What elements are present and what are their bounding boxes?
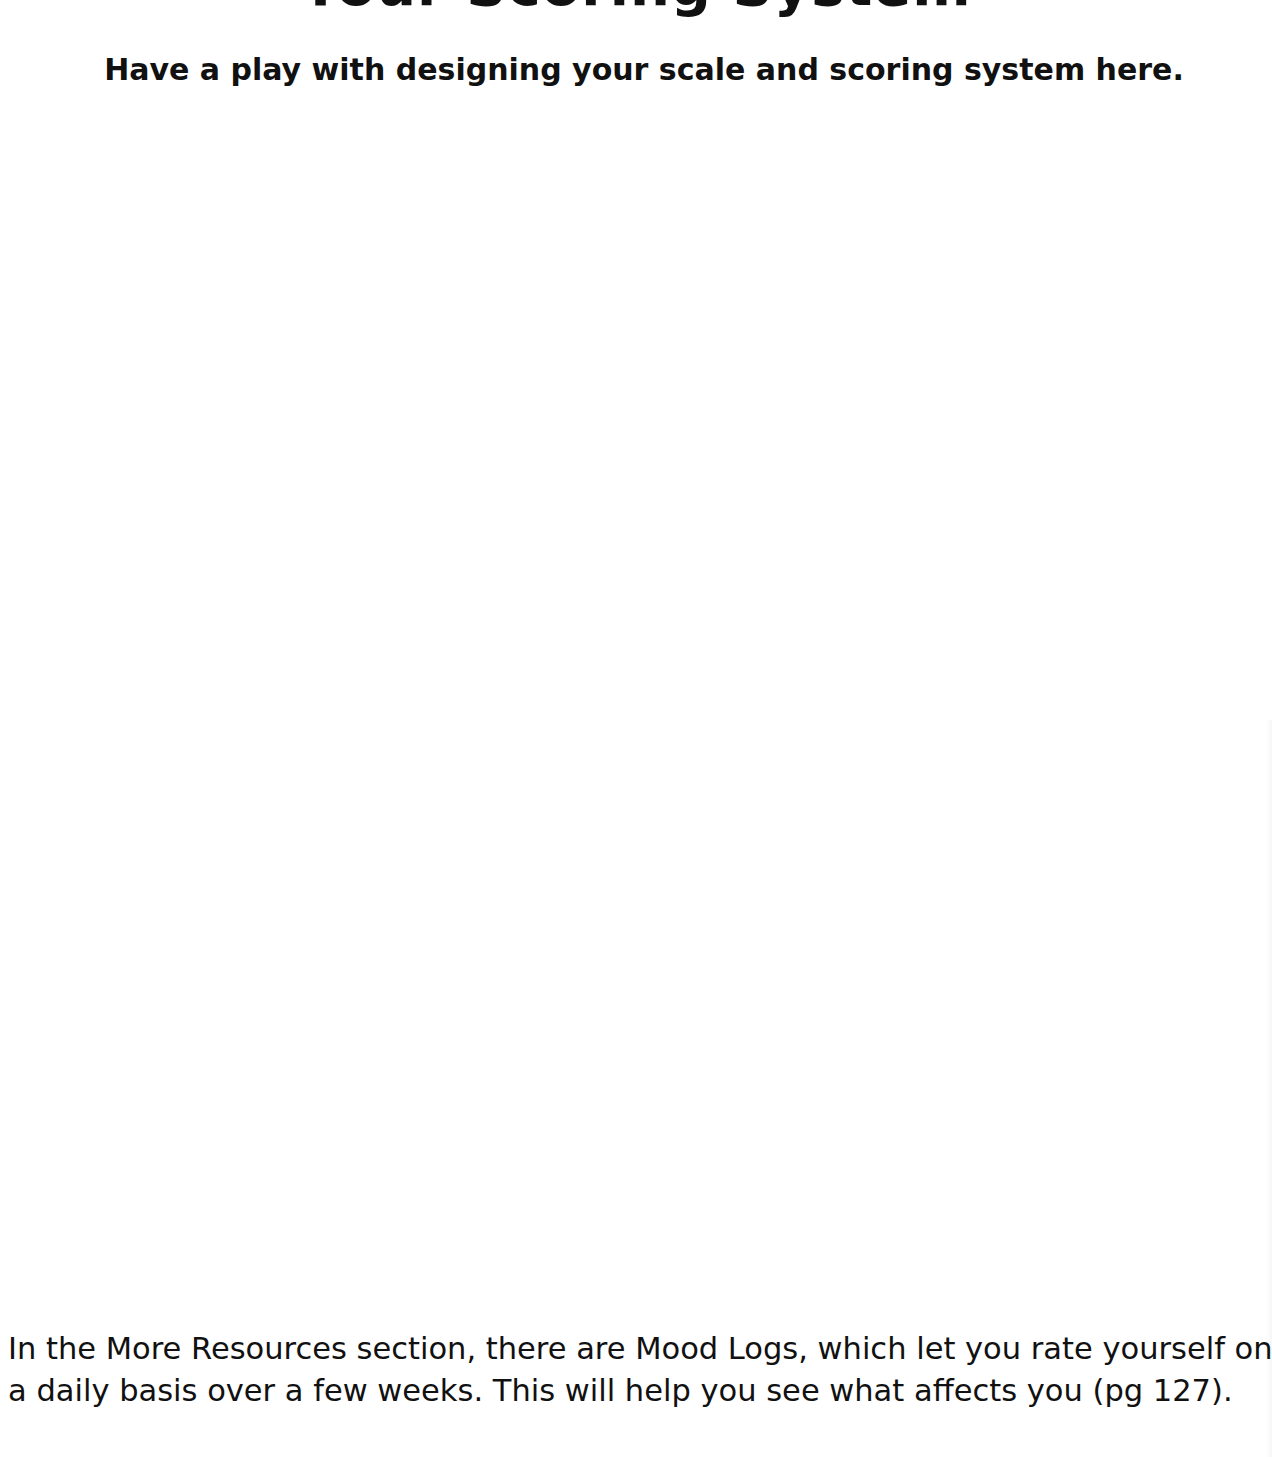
page-title: Your Scoring System	[0, 0, 1272, 16]
page-subtitle: Have a play with designing your scale an…	[0, 52, 1272, 88]
scan-edge-shadow	[1266, 720, 1272, 1457]
blank-design-area	[0, 110, 1272, 1310]
paragraph-line: a daily basis over a few weeks. This wil…	[8, 1370, 1270, 1412]
paragraph-line: In the More Resources section, there are…	[8, 1328, 1270, 1370]
resources-paragraph: In the More Resources section, there are…	[8, 1328, 1270, 1412]
